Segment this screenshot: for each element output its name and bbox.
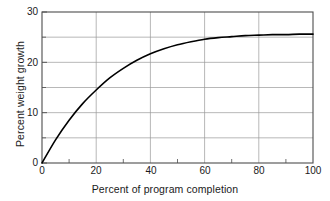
x-tick-label-80: 80 [244,165,274,176]
y-axis-title: Percent weight growth [14,19,26,169]
x-axis-title: Percent of program completion [0,183,330,195]
x-tick-label-40: 40 [136,165,166,176]
x-tick-label-20: 20 [81,165,111,176]
x-tick-label-60: 60 [190,165,220,176]
y-tick-label-30: 30 [14,6,38,17]
growth-curve-chart: 0 20 40 60 80 100 0 10 20 30 Percent of … [0,0,330,201]
x-tick-label-100: 100 [298,165,328,176]
